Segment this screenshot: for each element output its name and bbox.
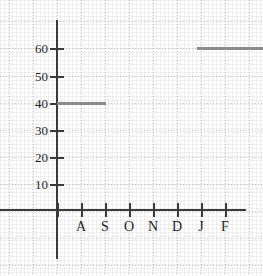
y-tick-10 — [50, 184, 64, 186]
y-tick-label-wrap-10: 10 — [14, 178, 48, 191]
x-tick-label-A: A — [71, 219, 91, 235]
grid-hline-0 — [0, 21, 263, 22]
x-tick-2 — [105, 203, 107, 217]
grid-hline-7 — [0, 211, 263, 212]
y-tick-50 — [50, 76, 64, 78]
grid-vline-0 — [9, 0, 10, 276]
x-tick-label-D: D — [167, 219, 187, 235]
y-tick-20 — [50, 157, 64, 159]
y-tick-label-wrap-20: 20 — [14, 151, 48, 164]
y-tick-label-wrap-30: 30 — [14, 124, 48, 137]
y-tick-label-wrap-40: 40 — [14, 97, 48, 110]
y-tick-30 — [50, 130, 64, 132]
x-tick-7 — [225, 203, 227, 217]
y-tick-label-40: 40 — [20, 97, 48, 110]
y-tick-label-50: 50 — [20, 70, 48, 83]
x-tick-6 — [201, 203, 203, 217]
data-segment-second-step — [197, 47, 263, 50]
x-tick-label-J: J — [191, 219, 211, 235]
x-tick-4 — [153, 203, 155, 217]
x-tick-0 — [57, 203, 59, 217]
grid-hline-8 — [0, 238, 263, 239]
x-tick-3 — [129, 203, 131, 217]
x-tick-label-N: N — [143, 219, 163, 235]
y-tick-label-20: 20 — [20, 151, 48, 164]
x-tick-label-O: O — [119, 219, 139, 235]
data-segment-first-step — [57, 102, 106, 105]
y-tick-label-30: 30 — [20, 124, 48, 137]
grid-hline-9 — [0, 265, 263, 266]
y-axis-line — [56, 20, 58, 259]
x-tick-label-S: S — [95, 219, 115, 235]
y-tick-60 — [50, 48, 64, 50]
x-tick-label-F: F — [215, 219, 235, 235]
x-axis-line — [0, 209, 246, 211]
x-tick-5 — [177, 203, 179, 217]
y-tick-label-10: 10 — [20, 178, 48, 191]
y-tick-label-60: 60 — [20, 42, 48, 55]
y-tick-label-wrap-60: 60 — [14, 42, 48, 55]
y-tick-label-wrap-50: 50 — [14, 70, 48, 83]
x-tick-1 — [81, 203, 83, 217]
chart-screenshot: 102030405060 ASONDJF — [0, 0, 263, 276]
grid-vline-10 — [249, 0, 250, 276]
